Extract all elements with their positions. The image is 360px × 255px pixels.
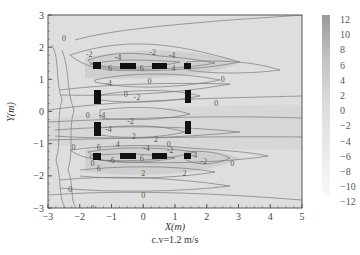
x-tick-label: 3: [236, 211, 241, 222]
colorbar-tick-label: −6: [340, 151, 351, 162]
contour-label: -2: [127, 117, 134, 126]
contour-label: 0: [124, 90, 128, 99]
colorbar-tick-label: 8: [340, 44, 345, 55]
contour-label: 0: [230, 159, 234, 168]
y-tick-label: 2: [39, 42, 44, 53]
contour-label: -2: [167, 146, 174, 155]
contour-label: 0: [71, 143, 75, 152]
contour-label: -2: [200, 157, 207, 166]
contour-label: 0: [221, 75, 225, 84]
contour-label: -4: [143, 144, 150, 153]
colorbar-tick-label: 10: [340, 29, 350, 40]
x-tick-label: −3: [43, 211, 54, 222]
colorbar-tick-label: −10: [340, 181, 356, 192]
colorbar-tick-label: 6: [340, 60, 345, 71]
colorbar-tick-label: 4: [340, 75, 345, 86]
contour-label: 0: [68, 185, 72, 194]
colorbar-tick-label: 2: [340, 90, 345, 101]
contour-label: 2: [183, 169, 187, 178]
x-tick-label: 0: [141, 211, 146, 222]
contour-label: 0: [62, 34, 66, 43]
contour-label: 2: [154, 135, 158, 144]
contour-label: 0: [214, 99, 218, 108]
contour-label: 6: [97, 143, 101, 152]
x-tick-label: −2: [74, 211, 85, 222]
y-tick-label: 0: [39, 106, 44, 117]
x-tick-label: 2: [204, 211, 209, 222]
contour-label: -4: [105, 125, 112, 134]
y-tick-label: −2: [33, 170, 44, 181]
x-tick-label: −1: [106, 211, 117, 222]
colorbar-tick-label: −8: [340, 166, 351, 177]
y-tick-label: −1: [33, 138, 44, 149]
contour-label: -2: [86, 50, 93, 59]
contour-label: 0: [148, 77, 152, 86]
contour-label: -6: [108, 156, 115, 165]
colorbar-tick-label: −12: [340, 196, 356, 207]
colorbar-tick-label: −2: [340, 120, 351, 131]
colorbar-labels: 121086420−2−4−6−8−10−12: [340, 14, 356, 207]
contour-label: 2: [132, 132, 136, 141]
y-tick-label: 3: [39, 10, 44, 21]
contour-label: 6: [108, 64, 112, 73]
contour-label: -2: [149, 48, 156, 57]
colorbar-tick-label: 0: [340, 105, 345, 116]
x-axis-title: X(m): [164, 221, 186, 233]
contour-label: 6: [140, 64, 144, 73]
contour-label: -4: [168, 51, 175, 60]
contour-label: 0: [141, 191, 145, 200]
chart-caption: c.v=1.2 m/s: [151, 234, 198, 245]
contour-label: -4: [191, 151, 198, 160]
contour-label: 2: [141, 169, 145, 178]
contour-label: -4: [99, 111, 106, 120]
contour-label: 6: [97, 164, 101, 173]
colorbar-tick-label: 12: [340, 14, 350, 25]
colorbar: [322, 15, 330, 195]
contour-label: -4: [115, 53, 122, 62]
colorbar-tick-label: −4: [340, 136, 351, 147]
x-tick-label: 5: [300, 211, 305, 222]
y-axis-title: Y(m): [5, 102, 17, 122]
y-tick-label: 1: [39, 74, 44, 85]
contour-label: 6: [140, 154, 144, 163]
contour-label: 0: [86, 111, 90, 120]
contour-label: -4: [105, 79, 112, 88]
contour-label: -2: [134, 93, 141, 102]
contour-label: 4: [116, 140, 120, 149]
x-tick-label: 4: [268, 211, 273, 222]
contour-chart: 0-2-4-2-466400-2-400-40-22-442006-4-66-2…: [0, 0, 360, 255]
y-tick-label: −3: [33, 203, 44, 214]
contour-label: 4: [171, 64, 175, 73]
contour-label: 0: [90, 159, 94, 168]
